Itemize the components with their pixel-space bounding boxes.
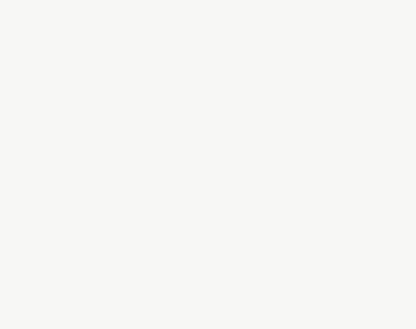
- fft-flow-graph: [0, 0, 416, 329]
- butterfly-lines: [0, 0, 416, 329]
